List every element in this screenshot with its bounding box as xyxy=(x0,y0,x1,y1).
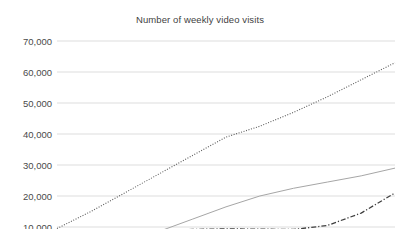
y-axis-tick-label: 60,000 xyxy=(6,67,52,78)
y-axis-tick-label: 30,000 xyxy=(6,160,52,171)
y-axis-tick-label: 20,000 xyxy=(6,191,52,202)
y-axis-tick-label: 40,000 xyxy=(6,129,52,140)
series-line-dash-dot xyxy=(158,193,395,229)
y-axis-tick-label: 50,000 xyxy=(6,98,52,109)
y-axis-tick-label: 70,000 xyxy=(6,36,52,47)
series-line-dotted xyxy=(57,63,395,229)
y-axis-tick-label: 10,000 xyxy=(6,222,52,230)
series-line-solid xyxy=(158,168,395,229)
top-crop-strip xyxy=(0,0,400,11)
plot-area xyxy=(0,0,400,229)
y-axis-tick-labels: 70,00060,00050,00040,00030,00020,00010,0… xyxy=(2,0,52,229)
gridlines xyxy=(57,41,395,227)
chart-container: Number of weekly video visits 70,00060,0… xyxy=(0,0,400,229)
